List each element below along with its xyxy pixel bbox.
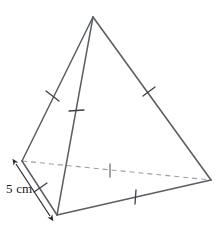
tetrahedron-figure: 5 cm [0, 0, 223, 233]
tetrahedron-svg [0, 0, 223, 233]
edge-apex-to-back-left [22, 17, 93, 161]
tick-mark-front-bottom-right [135, 190, 136, 204]
edge-apex-to-right [93, 17, 211, 180]
tick-mark-apex-front-bottom [69, 110, 84, 111]
edge-apex-to-front-bottom [57, 17, 93, 215]
edge-front-bottom-to-right [57, 180, 211, 215]
edge-back-left-to-right-hidden [22, 161, 211, 180]
dimension-label: 5 cm [6, 181, 32, 197]
tick-marks-group [34, 87, 155, 204]
